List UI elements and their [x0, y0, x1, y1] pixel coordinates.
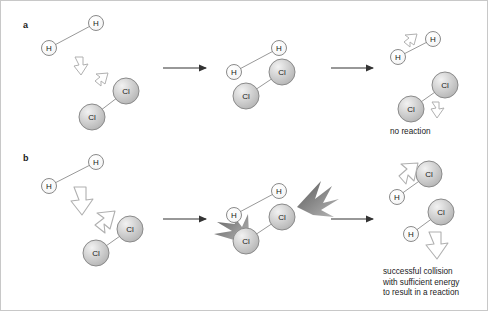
atom-h: H: [89, 155, 104, 170]
svg-text:Cl: Cl: [242, 237, 250, 246]
panel-a-outcome-caption: no reaction: [390, 127, 431, 138]
atom-h: H: [89, 16, 104, 31]
atom-cl: Cl: [113, 78, 139, 104]
svg-text:Cl: Cl: [122, 87, 130, 96]
svg-text:H: H: [276, 187, 282, 196]
atom-h: H: [272, 41, 287, 56]
atom-cl: Cl: [416, 161, 442, 187]
svg-text:Cl: Cl: [425, 170, 433, 179]
panel-b-stage-collision: Cl Cl H H: [214, 181, 339, 254]
svg-text:H: H: [46, 182, 52, 191]
svg-text:H: H: [93, 158, 99, 167]
collision-spark-icon: [297, 181, 339, 217]
atom-cl: Cl: [432, 72, 458, 98]
atom-h: H: [390, 190, 405, 205]
svg-text:Cl: Cl: [278, 213, 286, 222]
atom-h: H: [404, 227, 419, 242]
collision-theory-figure: H H Cl Cl: [0, 0, 488, 311]
atom-h: H: [227, 65, 242, 80]
svg-text:H: H: [231, 211, 237, 220]
panel-label-a: a: [23, 20, 28, 30]
motion-arrow-icon: [95, 73, 108, 86]
svg-text:Cl: Cl: [407, 105, 415, 114]
atom-h: H: [227, 208, 242, 223]
motion-arrow-icon: [71, 187, 93, 215]
svg-text:H: H: [231, 68, 237, 77]
atom-cl: Cl: [233, 83, 259, 109]
motion-arrow-icon: [426, 232, 448, 259]
atom-cl: Cl: [269, 59, 295, 85]
atom-cl: Cl: [117, 216, 143, 242]
svg-text:Cl: Cl: [88, 113, 96, 122]
svg-text:Cl: Cl: [242, 92, 250, 101]
atom-cl: Cl: [398, 96, 424, 122]
panel-a-stage-products: H H Cl Cl: [391, 32, 459, 123]
atom-cl: Cl: [428, 199, 454, 225]
panel-a-stage-approach: H H Cl Cl: [42, 16, 140, 131]
atom-h: H: [391, 50, 406, 65]
svg-text:H: H: [430, 35, 436, 44]
svg-text:H: H: [93, 19, 99, 28]
motion-arrow-icon: [404, 34, 417, 47]
atom-h: H: [272, 184, 287, 199]
svg-text:H: H: [408, 230, 414, 239]
svg-text:H: H: [395, 53, 401, 62]
svg-text:Cl: Cl: [126, 225, 134, 234]
atom-cl: Cl: [83, 240, 109, 266]
svg-text:H: H: [276, 44, 282, 53]
svg-text:H: H: [394, 193, 400, 202]
panel-a-stage-collision: Cl Cl H H: [227, 41, 296, 110]
svg-text:Cl: Cl: [441, 81, 449, 90]
atom-h: H: [42, 41, 57, 56]
panel-label-b: b: [23, 153, 29, 163]
motion-arrow-icon: [95, 211, 115, 233]
svg-text:H: H: [46, 44, 52, 53]
atom-cl: Cl: [269, 204, 295, 230]
atom-h: H: [426, 32, 441, 47]
panel-b-stage-products: H Cl H Cl: [390, 161, 455, 259]
svg-text:Cl: Cl: [278, 68, 286, 77]
svg-text:Cl: Cl: [92, 249, 100, 258]
svg-text:Cl: Cl: [437, 208, 445, 217]
motion-arrow-icon: [431, 102, 444, 118]
figure-canvas: H H Cl Cl: [1, 1, 488, 311]
atom-cl: Cl: [233, 228, 259, 254]
panel-b-stage-approach: H H Cl Cl: [42, 155, 144, 267]
motion-arrow-icon: [74, 57, 88, 75]
atom-cl: Cl: [79, 104, 105, 130]
panel-b-outcome-caption: successful collision with sufficient ene…: [383, 267, 459, 299]
atom-h: H: [42, 179, 57, 194]
motion-arrow-icon: [399, 163, 418, 184]
